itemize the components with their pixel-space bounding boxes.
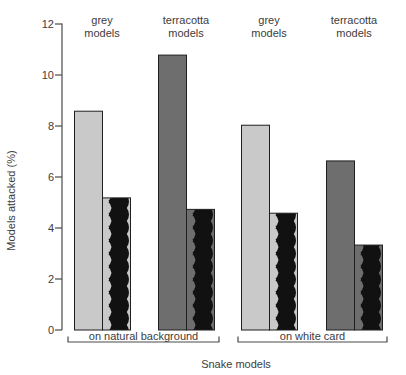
bar-on-white-card-terracotta-plain bbox=[327, 161, 355, 330]
y-axis-tick-label: 10 bbox=[30, 69, 54, 81]
column-label-terracotta-models-natural: terracotta models bbox=[160, 14, 212, 40]
snake-models-bar-chart-figure: grey models terracotta models grey model… bbox=[0, 0, 406, 375]
y-axis-tick-label: 12 bbox=[30, 18, 54, 30]
group-label-on-white-card: on white card bbox=[247, 330, 378, 343]
bar-chart-canvas bbox=[0, 0, 406, 375]
bar-on-white-card-terracotta-zigzag bbox=[355, 245, 383, 330]
bar-on-white-card-grey-plain bbox=[242, 125, 270, 330]
bar-on-natural-background-terracotta-plain bbox=[159, 55, 187, 330]
column-label-terracotta-models-whitecard: terracotta models bbox=[328, 14, 380, 40]
column-label-grey-models-natural: grey models bbox=[76, 14, 128, 40]
bar-on-natural-background-terracotta-zigzag bbox=[187, 209, 215, 330]
y-axis-tick-label: 8 bbox=[30, 120, 54, 132]
column-label-grey-models-whitecard: grey models bbox=[243, 14, 295, 40]
bar-on-white-card-grey-zigzag bbox=[270, 213, 298, 330]
y-axis-tick-label: 0 bbox=[30, 324, 54, 336]
y-axis-tick-label: 2 bbox=[30, 273, 54, 285]
y-axis-tick-label: 6 bbox=[30, 171, 54, 183]
group-label-on-natural-background: on natural background bbox=[68, 330, 219, 343]
x-axis-title: Snake models bbox=[171, 358, 301, 371]
y-axis-tick-label: 4 bbox=[30, 222, 54, 234]
bar-on-natural-background-grey-zigzag bbox=[103, 198, 131, 330]
y-axis-title: Models attacked (%) bbox=[5, 126, 18, 276]
bar-on-natural-background-grey-plain bbox=[75, 111, 103, 330]
